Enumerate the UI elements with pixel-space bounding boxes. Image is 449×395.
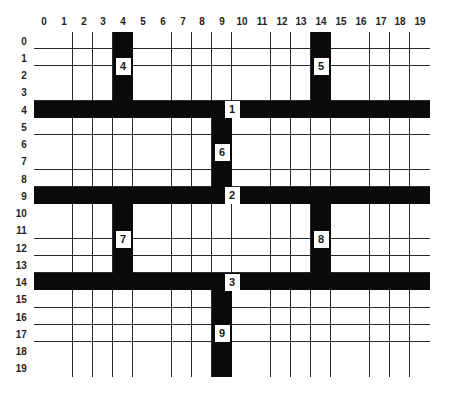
grid-cell: [53, 204, 73, 222]
grid-cell: [271, 342, 291, 360]
column-label: 7: [174, 15, 192, 27]
grid-cell: [390, 359, 410, 377]
grid-cell: [53, 342, 73, 360]
grid-cell: [73, 170, 93, 188]
grid-cell: [53, 83, 73, 101]
grid-cell: [331, 49, 351, 67]
grid-cell: [212, 256, 232, 274]
grid-cell: [271, 308, 291, 326]
grid-cell: [93, 308, 113, 326]
filled-cell: [152, 187, 172, 205]
grid-cell: [152, 256, 172, 274]
grid-cell: [291, 135, 311, 153]
grid-cell: [172, 256, 192, 274]
grid-cell: [331, 83, 351, 101]
grid-cell: [172, 221, 192, 239]
filled-cell: [34, 187, 54, 205]
column-label: 10: [233, 15, 251, 27]
row-label: 2: [5, 69, 27, 81]
grid-cell: [271, 118, 291, 136]
grid-cell: [311, 170, 331, 188]
row-label: 13: [5, 259, 27, 271]
filled-cell: [93, 187, 113, 205]
grid-cell: [152, 135, 172, 153]
grid-cell: [133, 308, 153, 326]
grid-cell: [311, 118, 331, 136]
column-label: 16: [352, 15, 370, 27]
segment-number-label: 9: [215, 325, 230, 342]
grid-cell: [370, 359, 390, 377]
grid-cell: [232, 256, 252, 274]
grid-cell: [410, 204, 430, 222]
filled-cell: [172, 273, 192, 291]
grid-cell: [73, 204, 93, 222]
grid-cell: [291, 83, 311, 101]
grid-cell: [113, 325, 133, 343]
grid-cell: [73, 83, 93, 101]
grid-cell: [232, 204, 252, 222]
grid-cell: [53, 239, 73, 257]
grid-cell: [251, 256, 271, 274]
column-label: 19: [411, 15, 429, 27]
grid-cell: [251, 325, 271, 343]
grid-cell: [93, 221, 113, 239]
grid-cell: [152, 239, 172, 257]
filled-cell: [311, 204, 331, 222]
grid-cell: [192, 239, 212, 257]
column-label: 0: [35, 15, 53, 27]
grid-cell: [251, 221, 271, 239]
grid-cell: [410, 49, 430, 67]
grid-cell: [152, 221, 172, 239]
grid-cell: [271, 83, 291, 101]
filled-cell: [113, 273, 133, 291]
grid-cell: [291, 308, 311, 326]
grid-cell: [34, 152, 54, 170]
grid-cell: [232, 66, 252, 84]
grid-cell: [291, 256, 311, 274]
grid-cell: [271, 359, 291, 377]
filled-cell: [331, 101, 351, 119]
grid-cell: [370, 152, 390, 170]
grid-cell: [34, 83, 54, 101]
grid-cell: [251, 118, 271, 136]
filled-cell: [410, 273, 430, 291]
grid-cell: [212, 221, 232, 239]
column-label: 5: [134, 15, 152, 27]
column-label: 8: [193, 15, 211, 27]
grid-cell: [251, 83, 271, 101]
grid-diagram: 012345678910111213141516171819 012345678…: [0, 0, 449, 395]
grid-cell: [350, 152, 370, 170]
grid-cell: [350, 359, 370, 377]
filled-cell: [271, 187, 291, 205]
grid-cell: [133, 342, 153, 360]
grid-cell: [34, 308, 54, 326]
grid-cell: [34, 135, 54, 153]
grid-cell: [390, 49, 410, 67]
grid-cell: [53, 170, 73, 188]
grid-cell: [152, 83, 172, 101]
segment-number-label: 4: [116, 58, 131, 75]
grid-cell: [172, 290, 192, 308]
grid-cell: [390, 325, 410, 343]
grid-cell: [73, 32, 93, 50]
grid-cell: [53, 66, 73, 84]
grid-cell: [232, 118, 252, 136]
grid-cell: [410, 118, 430, 136]
grid-cell: [53, 359, 73, 377]
grid-cell: [291, 49, 311, 67]
filled-cell: [34, 273, 54, 291]
grid-cell: [271, 32, 291, 50]
grid-cell: [192, 204, 212, 222]
grid-cell: [212, 83, 232, 101]
grid-cell: [350, 308, 370, 326]
filled-cell: [291, 101, 311, 119]
grid-cell: [251, 204, 271, 222]
filled-cell: [152, 273, 172, 291]
grid-cell: [152, 204, 172, 222]
grid-cell: [271, 152, 291, 170]
filled-cell: [212, 290, 232, 308]
grid-cell: [172, 170, 192, 188]
grid-cell: [192, 256, 212, 274]
row-label: 10: [5, 207, 27, 219]
filled-cell: [53, 101, 73, 119]
